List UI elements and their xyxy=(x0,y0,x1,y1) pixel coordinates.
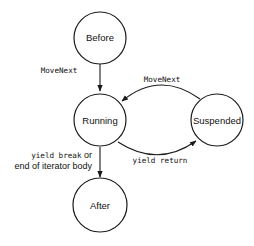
edge-label-yield-break: yield break or xyxy=(31,150,92,160)
edge-running-to-after: yield break or end of iterator body xyxy=(14,147,100,177)
state-diagram: MoveNext MoveNext yield return yield bre… xyxy=(0,0,254,246)
edge-label-movenext-before: MoveNext xyxy=(41,66,78,75)
edge-label-yield-break-code: yield break xyxy=(31,151,82,160)
edge-label-movenext-suspended: MoveNext xyxy=(144,75,181,84)
edge-label-yield-return: yield return xyxy=(133,156,188,165)
edge-running-to-suspended: yield return xyxy=(118,141,196,165)
edge-label-yield-break-or: or xyxy=(81,150,92,160)
node-before: Before xyxy=(74,12,126,64)
node-after: After xyxy=(73,178,127,232)
edge-suspended-to-running: MoveNext xyxy=(122,75,200,101)
edge-label-end-of-iterator: end of iterator body xyxy=(14,161,92,171)
node-suspended-label: Suspended xyxy=(193,115,241,126)
node-running-label: Running xyxy=(82,115,117,126)
edge-before-to-running: MoveNext xyxy=(41,64,100,91)
node-after-label: After xyxy=(90,200,110,211)
node-running: Running xyxy=(74,94,126,146)
node-before-label: Before xyxy=(86,32,114,43)
node-suspended: Suspended xyxy=(191,94,243,146)
